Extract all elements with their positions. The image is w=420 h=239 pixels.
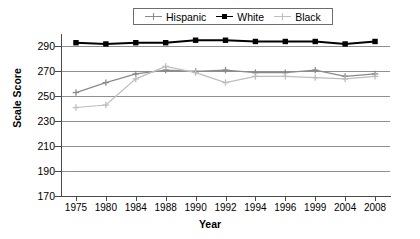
legend-marker-black xyxy=(274,12,291,21)
y-axis-tick-label: 210 xyxy=(37,140,55,152)
x-axis-tick-label: 1980 xyxy=(95,202,117,213)
data-point-black xyxy=(222,79,228,85)
y-axis-tick-label: 290 xyxy=(37,40,55,52)
legend-item-hispanic: Hispanic xyxy=(145,12,206,22)
chart-figure: Hispanic White Black 2902702502302101901… xyxy=(0,0,420,239)
data-point-hispanic xyxy=(73,89,79,95)
x-axis-tick-label: 1990 xyxy=(184,202,206,213)
x-axis-tick-label: 1992 xyxy=(214,202,236,213)
x-axis-tick xyxy=(226,197,227,201)
x-axis-tick xyxy=(375,197,376,201)
y-axis-tick-label: 250 xyxy=(37,90,55,102)
legend-label-black: Black xyxy=(295,12,321,22)
x-axis-tick xyxy=(136,197,137,201)
data-point-white xyxy=(133,40,138,45)
data-point-white xyxy=(372,39,377,44)
data-point-black xyxy=(192,69,198,75)
x-axis-title: Year xyxy=(0,218,420,230)
x-axis-tick-label: 1999 xyxy=(304,202,326,213)
data-point-black xyxy=(73,104,79,110)
y-axis-labels: 290270250230210190170 xyxy=(0,34,55,197)
data-point-white xyxy=(283,39,288,44)
y-axis-tick-label: 230 xyxy=(37,115,55,127)
y-axis-tick-label: 190 xyxy=(37,165,55,177)
x-axis-tick xyxy=(315,197,316,201)
data-series-layer xyxy=(61,34,391,197)
legend-label-white: White xyxy=(237,12,264,22)
x-axis-tick xyxy=(345,197,346,201)
x-axis-tick-label: 1984 xyxy=(125,202,147,213)
chart-legend: Hispanic White Black xyxy=(133,8,333,25)
x-axis-labels: 1975198019841988199019921994199619992004… xyxy=(61,202,391,216)
x-axis-tick xyxy=(166,197,167,201)
x-axis-tick xyxy=(196,197,197,201)
data-point-white xyxy=(73,40,78,45)
data-point-black xyxy=(312,74,318,80)
data-point-black xyxy=(252,73,258,79)
y-axis-tick-label: 170 xyxy=(37,190,55,202)
x-axis-tick xyxy=(106,197,107,201)
legend-item-white: White xyxy=(216,12,264,22)
legend-label-hispanic: Hispanic xyxy=(166,12,206,22)
x-axis-tick xyxy=(285,197,286,201)
x-axis-ticks xyxy=(61,197,391,201)
legend-marker-hispanic xyxy=(145,12,162,21)
legend-item-black: Black xyxy=(274,12,321,22)
data-point-white xyxy=(313,39,318,44)
x-axis-tick xyxy=(255,197,256,201)
data-point-black xyxy=(162,63,168,69)
data-point-white xyxy=(342,41,347,46)
y-axis-title: Scale Score xyxy=(11,43,23,153)
data-point-white xyxy=(223,38,228,43)
x-axis-tick xyxy=(76,197,77,201)
x-axis-tick-label: 1996 xyxy=(274,202,296,213)
data-point-white xyxy=(193,38,198,43)
y-axis-tick-label: 270 xyxy=(37,65,55,77)
x-axis-tick-label: 1975 xyxy=(65,202,87,213)
data-point-hispanic xyxy=(222,67,228,73)
data-point-black xyxy=(282,73,288,79)
x-axis-tick-label: 2008 xyxy=(364,202,386,213)
data-point-white xyxy=(163,40,168,45)
data-point-hispanic xyxy=(103,79,109,85)
x-axis-tick-label: 1988 xyxy=(155,202,177,213)
x-axis-tick-label: 1994 xyxy=(244,202,266,213)
data-point-white xyxy=(103,41,108,46)
data-point-hispanic xyxy=(312,67,318,73)
x-axis-tick-label: 2004 xyxy=(334,202,356,213)
legend-marker-white xyxy=(216,12,233,21)
data-point-white xyxy=(253,39,258,44)
